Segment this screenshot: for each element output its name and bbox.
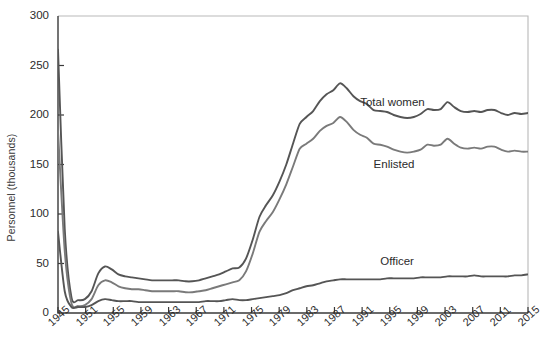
plot-svg [0,0,547,353]
y-tick-label: 50 [15,258,49,270]
series-label-enlisted: Enlisted [374,159,415,171]
series-total-women [58,50,528,303]
series-label-total-women: Total women [360,97,425,109]
y-tick-label: 150 [15,159,49,171]
y-tick-label: 100 [15,208,49,220]
y-tick-label: 300 [15,10,49,22]
y-tick-label: 200 [15,109,49,121]
series-officer [58,232,528,308]
y-tick-label: 0 [15,307,49,319]
series-line [58,50,528,303]
chart-container: Personnel (thousands) 050100150200250300… [0,0,547,353]
data-series-layer [58,50,528,308]
series-label-officer: Officer [380,256,414,268]
series-line [58,232,528,308]
y-tick-label: 250 [15,60,49,72]
